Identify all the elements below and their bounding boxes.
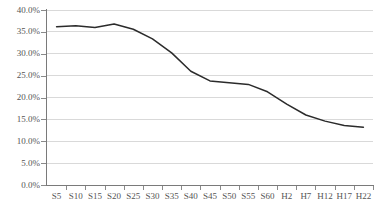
x-tick-label: H12	[317, 191, 333, 202]
x-tick-mark	[373, 186, 374, 190]
y-tick-mark	[41, 119, 46, 120]
y-tick-mark	[41, 10, 46, 11]
x-tick-mark	[105, 186, 106, 190]
y-tick-label: 35.0%	[17, 27, 40, 36]
x-tick-label: S20	[107, 191, 121, 202]
x-tick-mark	[181, 186, 182, 190]
x-tick-mark	[239, 186, 240, 190]
x-tick-mark	[277, 186, 278, 190]
x-tick-label: S10	[69, 191, 83, 202]
x-tick-label: S40	[184, 191, 198, 202]
x-tick-label: S45	[203, 191, 217, 202]
x-tick-mark	[335, 186, 336, 190]
x-tick-mark	[296, 186, 297, 190]
x-tick-mark	[66, 186, 67, 190]
line-chart: 40.0%35.0%30.0%25.0%20.0%15.0%10.0%5.0%0…	[0, 0, 382, 222]
plot-area	[47, 10, 373, 185]
y-tick-mark	[41, 76, 46, 77]
x-tick-mark	[220, 186, 221, 190]
y-axis-tick-labels: 40.0%35.0%30.0%25.0%20.0%15.0%10.0%5.0%0…	[0, 0, 46, 222]
x-tick-label: S55	[241, 191, 255, 202]
y-tick-label: 30.0%	[17, 49, 40, 58]
data-series-line	[47, 10, 373, 185]
x-tick-label: H2	[281, 191, 292, 202]
y-tick-mark	[41, 163, 46, 164]
y-tick-mark	[41, 98, 46, 99]
y-tick-mark	[41, 54, 46, 55]
x-tick-label: S5	[52, 191, 62, 202]
x-tick-mark	[124, 186, 125, 190]
x-tick-mark	[258, 186, 259, 190]
y-tick-label: 40.0%	[17, 6, 40, 15]
y-tick-label: 20.0%	[17, 93, 40, 102]
x-tick-label: S15	[88, 191, 102, 202]
y-tick-mark	[41, 32, 46, 33]
y-tick-mark	[41, 141, 46, 142]
y-tick-label: 10.0%	[17, 137, 40, 146]
x-tick-label: S25	[126, 191, 140, 202]
y-tick-label: 25.0%	[17, 71, 40, 80]
y-tick-label: 5.0%	[21, 159, 40, 168]
x-tick-label: H17	[336, 191, 352, 202]
y-tick-label: 15.0%	[17, 115, 40, 124]
x-tick-mark	[354, 186, 355, 190]
series-polyline	[57, 24, 364, 127]
x-tick-label: S50	[222, 191, 236, 202]
x-tick-mark	[85, 186, 86, 190]
x-tick-label: S60	[261, 191, 275, 202]
x-tick-mark	[200, 186, 201, 190]
x-tick-mark	[162, 186, 163, 190]
y-tick-label: 0.0%	[21, 181, 40, 190]
x-tick-label: H22	[356, 191, 372, 202]
x-tick-label: H7	[300, 191, 311, 202]
x-tick-label: S35	[165, 191, 179, 202]
x-tick-label: S30	[145, 191, 159, 202]
y-tick-mark	[41, 185, 46, 186]
x-tick-mark	[143, 186, 144, 190]
x-axis-tick-labels: S5S10S15S20S25S30S35S40S45S50S55S60H2H7H…	[47, 191, 373, 213]
x-tick-mark	[315, 186, 316, 190]
